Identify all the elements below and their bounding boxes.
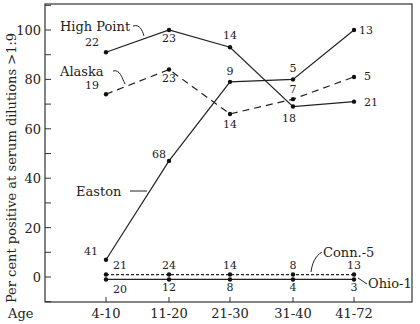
data-point [104,258,108,262]
data-point-label: 19 [85,79,99,92]
data-point-label: 3 [351,281,358,294]
arrow-alaska [113,71,125,84]
data-point-label: 22 [85,36,99,49]
data-point [104,92,108,96]
series-label-high-point: High Point [60,19,131,34]
data-point [352,99,356,103]
data-point-label: 21 [364,96,378,109]
series-label-ohio: Ohio-1 [368,276,412,291]
data-point-label: 18 [282,112,296,125]
data-point [352,28,356,32]
arrow-conn [311,252,322,272]
data-point-label: 9 [227,65,234,78]
data-point [228,80,232,84]
x-tick-label: 11-20 [150,306,187,321]
data-point [228,45,232,49]
data-point [291,104,295,108]
data-point-label: 8 [290,259,297,272]
series-easton: 41689513 [84,24,373,262]
series-ohio-1: 2012843 [104,277,358,296]
data-point [352,272,356,276]
data-point-label: 14 [223,118,237,131]
data-point-label: 14 [223,259,237,272]
data-point-label: 12 [162,281,176,294]
data-point-label: 13 [359,24,373,37]
data-point [291,272,295,276]
data-point [352,75,356,79]
data-point-label: 14 [223,29,237,42]
y-tick-label: 40 [24,171,41,186]
arrow-ohio [358,278,367,284]
data-point-label: 20 [113,283,127,296]
x-axis: 4-1011-2021-3031-4041-72 [91,297,372,321]
data-point [228,112,232,116]
data-point-label: 5 [290,62,297,75]
y-tick-label: 20 [24,221,41,236]
data-point-label: 24 [162,259,176,272]
data-point-label: 4 [290,281,297,294]
data-point-label: 21 [113,259,127,272]
arrow-high-point [133,26,144,36]
y-tick-label: 60 [24,122,41,137]
x-axis-title: Age [7,306,34,321]
x-tick-label: 21-30 [211,306,248,321]
data-point [291,77,295,81]
data-point-label: 23 [162,72,176,85]
data-point [104,277,108,281]
series-label-easton: Easton [76,184,122,199]
data-point-label: 41 [84,245,98,258]
y-axis: 020406080100 [16,5,51,301]
line-chart: 020406080100 4-1011-2021-3031-4041-72 Ag… [0,0,420,324]
data-point [104,50,108,54]
series-label-conn: Conn.-5 [323,245,374,260]
data-point-label: 13 [347,259,361,272]
data-point [167,159,171,163]
data-point [228,272,232,276]
x-tick-label: 31-40 [274,306,311,321]
x-tick-label: 4-10 [91,306,120,321]
data-point-label: 23 [162,32,176,45]
series-conn-5: 212414813 [104,259,361,277]
y-tick-label: 100 [16,23,41,38]
data-point-label: 5 [364,70,371,83]
y-axis-title: Per cent positive at serum dilutions >1:… [4,33,19,303]
data-point-label: 7 [290,83,297,96]
x-tick-label: 41-72 [335,306,372,321]
series-label-alaska: Alaska [59,64,104,79]
y-tick-label: 80 [24,72,41,87]
data-point-label: 8 [227,281,234,294]
data-point [167,272,171,276]
data-point [291,97,295,101]
y-tick-label: 0 [33,270,41,285]
data-point [104,272,108,276]
data-point-label: 68 [152,148,166,161]
